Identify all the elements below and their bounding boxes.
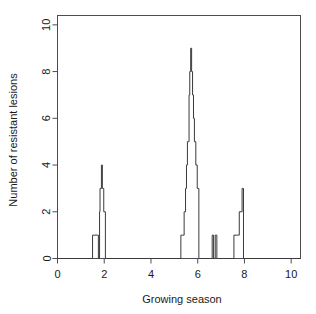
x-tick-label: 0 xyxy=(54,268,60,280)
chart-container: 0246810 0246810 Growing season Number of… xyxy=(0,0,316,314)
y-tick-label: 0 xyxy=(41,255,53,261)
y-tick-label: 8 xyxy=(41,69,53,75)
x-tick-label: 10 xyxy=(285,268,297,280)
x-tick-label: 6 xyxy=(195,268,201,280)
chart-background xyxy=(0,0,316,314)
x-tick-label: 4 xyxy=(148,268,154,280)
y-tick-label: 6 xyxy=(41,115,53,121)
step-plot-svg: 0246810 0246810 Growing season Number of… xyxy=(0,0,316,314)
y-axis-title: Number of resistant lesions xyxy=(7,73,19,207)
y-tick-label: 10 xyxy=(41,19,53,31)
x-axis-title: Growing season xyxy=(142,293,222,305)
x-tick-label: 2 xyxy=(101,268,107,280)
y-tick-label: 2 xyxy=(41,209,53,215)
y-tick-label: 4 xyxy=(41,162,53,168)
x-tick-label: 8 xyxy=(241,268,247,280)
